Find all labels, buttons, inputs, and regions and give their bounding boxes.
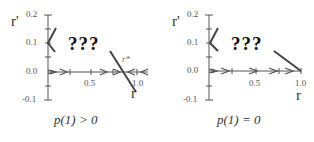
- y-tick-0.2: 0.2: [187, 9, 198, 19]
- y-tick-0.0: 0.0: [26, 66, 37, 76]
- y-axis-label: r': [11, 13, 19, 30]
- x-axis-label: r: [131, 85, 136, 102]
- phase-plot-right: 0.2 0.1 0.0 -0.1 0.5 1.0 r' r ??? p(1) =…: [157, 0, 314, 142]
- phase-plot-left: 0.2 0.1 0.0 -0.1 0.5 1.0 r' r ??? r* p(1…: [0, 0, 157, 142]
- caption-right: p(1) = 0: [217, 112, 260, 128]
- x-tick-0.5: 0.5: [84, 78, 95, 88]
- y-tick-0.2: 0.2: [26, 9, 37, 19]
- y-tick-0.1: 0.1: [26, 37, 37, 47]
- y-axis-label: r': [172, 13, 180, 30]
- question-marks: ???: [68, 33, 100, 55]
- y-tick-0.1: 0.1: [187, 37, 198, 47]
- caption-left: p(1) > 0: [54, 112, 97, 128]
- question-marks: ???: [231, 33, 263, 55]
- x-axis-label: r: [296, 87, 301, 104]
- y-tick-neg0.1: -0.1: [22, 94, 36, 104]
- y-tick-0.0: 0.0: [187, 65, 198, 75]
- x-tick-0.5: 0.5: [249, 78, 260, 88]
- fixed-point-label: r*: [122, 54, 130, 64]
- y-tick-neg0.1: -0.1: [183, 94, 197, 104]
